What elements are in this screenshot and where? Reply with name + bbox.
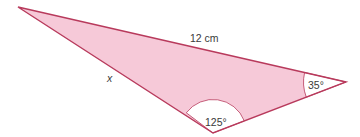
top-side-label: 12 cm — [190, 32, 219, 44]
right-angle-label: 35° — [308, 79, 324, 91]
triangle-shape — [18, 7, 346, 133]
left-side-label: x — [106, 72, 113, 84]
bottom-angle-label: 125° — [205, 116, 227, 128]
triangle-diagram: 12 cm x 125° 35° — [0, 0, 360, 137]
